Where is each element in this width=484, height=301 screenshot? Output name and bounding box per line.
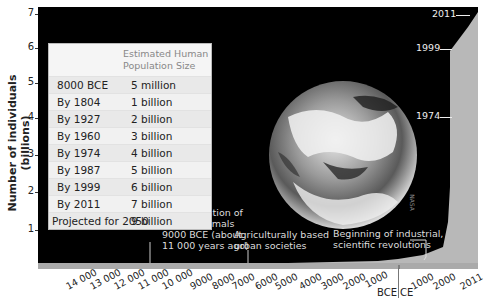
table-body: 8000 BCE5 million By 18041 billion By 19… [49, 76, 211, 229]
y-tick-6: 6 [24, 41, 34, 52]
plot-area: 2011 1999 1974 Domestication of plants, … [38, 7, 478, 269]
year-label-1974: 1974 [416, 110, 440, 121]
table-header: Estimated Human Population Size [49, 44, 211, 76]
table-row: By 18041 billion [49, 93, 211, 110]
ce-label: CE [400, 287, 413, 298]
y-tick-2: 2 [24, 185, 34, 196]
bce-label: BCE [377, 287, 397, 298]
y-tick-4: 4 [24, 111, 34, 122]
y-tick-5: 5 [24, 76, 34, 87]
table-row: By 19603 billion [49, 127, 211, 144]
population-table: Estimated Human Population Size 8000 BCE… [48, 43, 212, 230]
table-row: By 19744 billion [49, 144, 211, 161]
annotation-urban: Agriculturally based urban societies [234, 229, 329, 251]
table-row: By 19996 billion [49, 178, 211, 195]
year-label-2011: 2011 [432, 8, 456, 19]
table-row: Projected for 20509 billion [49, 212, 211, 229]
x-tick: 2011 [458, 271, 484, 292]
nasa-credit: NASA [407, 194, 418, 211]
year-leader-1974 [440, 117, 452, 118]
table-row: 8000 BCE5 million [49, 76, 211, 93]
y-tick-7: 7 [24, 7, 34, 18]
annotation-industrial: Beginning of industrial, scientific revo… [333, 228, 443, 250]
x-tick: 2000 [431, 271, 458, 292]
y-tick-1: 1 [24, 223, 34, 234]
year-label-1999: 1999 [416, 42, 440, 53]
x-tick: 5000 [273, 271, 300, 292]
year-leader-2011 [456, 15, 470, 16]
table-row: By 20117 billion [49, 195, 211, 212]
bce-ce-divider [398, 268, 399, 298]
table-row: By 19272 billion [49, 110, 211, 127]
year-leader-1999 [440, 49, 452, 50]
table-row: By 19875 billion [49, 161, 211, 178]
y-tick-3: 3 [24, 148, 34, 159]
earth-image [269, 81, 417, 229]
